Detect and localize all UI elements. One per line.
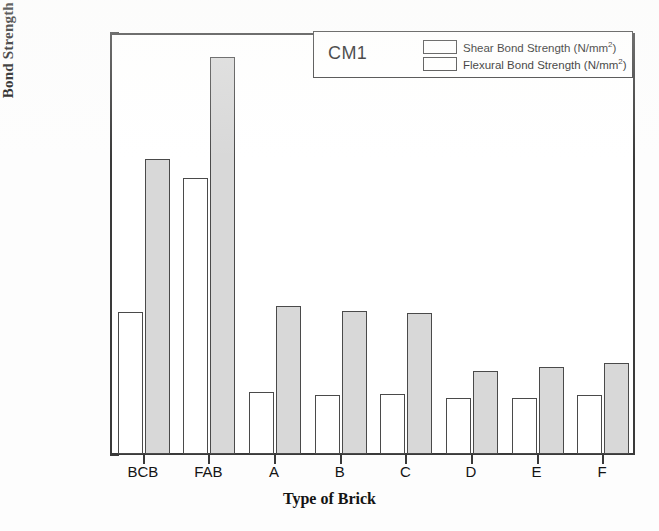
bar-d-flexural <box>473 371 498 454</box>
bar-e-shear <box>512 398 537 454</box>
bar-d-shear <box>446 398 471 454</box>
legend-swatch-shear <box>423 40 457 54</box>
bar-fab-shear <box>183 178 208 454</box>
x-axis-title: Type of Brick <box>0 490 659 508</box>
bar-c-shear <box>380 394 405 454</box>
x-tick-label-d: D <box>436 463 506 480</box>
x-tick-label-f: F <box>567 463 637 480</box>
bar-b-shear <box>315 395 340 454</box>
x-tick-label-bcb: BCB <box>108 463 178 480</box>
bar-f-flexural <box>604 363 629 454</box>
y-axis-title: Bond Strength (N/mm2) <box>0 0 17 150</box>
bar-bcb-shear <box>118 312 143 454</box>
legend-entry-flexural: Flexural Bond Strength (N/mm2) <box>423 56 627 72</box>
legend-swatch-flexural <box>423 57 457 71</box>
legend-label-flexural: Flexural Bond Strength (N/mm2) <box>463 57 627 71</box>
chart-annotation-cm1: CM1 <box>328 43 367 64</box>
bar-a-shear <box>249 392 274 454</box>
legend-label-shear: Shear Bond Strength (N/mm2) <box>463 40 616 54</box>
x-tick-label-b: B <box>305 463 375 480</box>
bar-a-flexural <box>276 306 301 454</box>
bar-bcb-flexural <box>145 159 170 454</box>
legend: CM1 Shear Bond Strength (N/mm2) Flexural… <box>313 31 633 78</box>
legend-entry-shear: Shear Bond Strength (N/mm2) <box>423 39 616 55</box>
x-tick-label-a: A <box>239 463 309 480</box>
bond-strength-bar-chart: Bond Strength (N/mm2) 0.000.050.100.150.… <box>0 0 659 531</box>
bar-e-flexural <box>539 367 564 454</box>
x-tick-label-c: C <box>370 463 440 480</box>
y-axis-title-text: Bond Strength (N/mm <box>0 0 16 98</box>
bar-c-flexural <box>407 313 432 454</box>
bar-b-flexural <box>342 311 367 454</box>
bar-f-shear <box>577 395 602 454</box>
x-tick-label-e: E <box>502 463 572 480</box>
bar-fab-flexural <box>210 57 235 454</box>
bars-layer <box>111 34 632 454</box>
x-tick-label-fab: FAB <box>173 463 243 480</box>
